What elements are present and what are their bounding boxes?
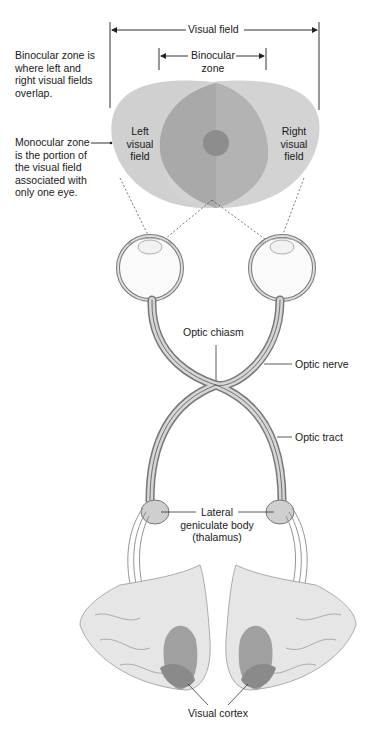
right-eye: [250, 236, 314, 300]
lateral-geniculate-label: Lateral geniculate body (thalamus): [176, 506, 258, 544]
left-eye: [118, 236, 182, 300]
right-hemisphere: [226, 565, 356, 705]
monocular-description: Monocular zone is the portion of the vis…: [15, 136, 90, 199]
optic-tract-label: Optic tract: [295, 431, 343, 444]
visual-cortex-label: Visual cortex: [188, 707, 248, 720]
visual-field-label: Visual field: [188, 23, 239, 36]
left-visual-field-label: Left visual field: [116, 125, 164, 163]
optic-chiasm-label: Optic chiasm: [183, 326, 244, 339]
left-hemisphere: [80, 565, 210, 705]
right-visual-field-label: Right visual field: [270, 125, 318, 163]
binocular-description: Binocular zone is where left and right v…: [15, 49, 95, 99]
optic-nerve-label: Optic nerve: [295, 358, 349, 371]
fovea-spot: [203, 130, 229, 156]
binocular-zone-label: Binocular zone: [190, 49, 236, 74]
